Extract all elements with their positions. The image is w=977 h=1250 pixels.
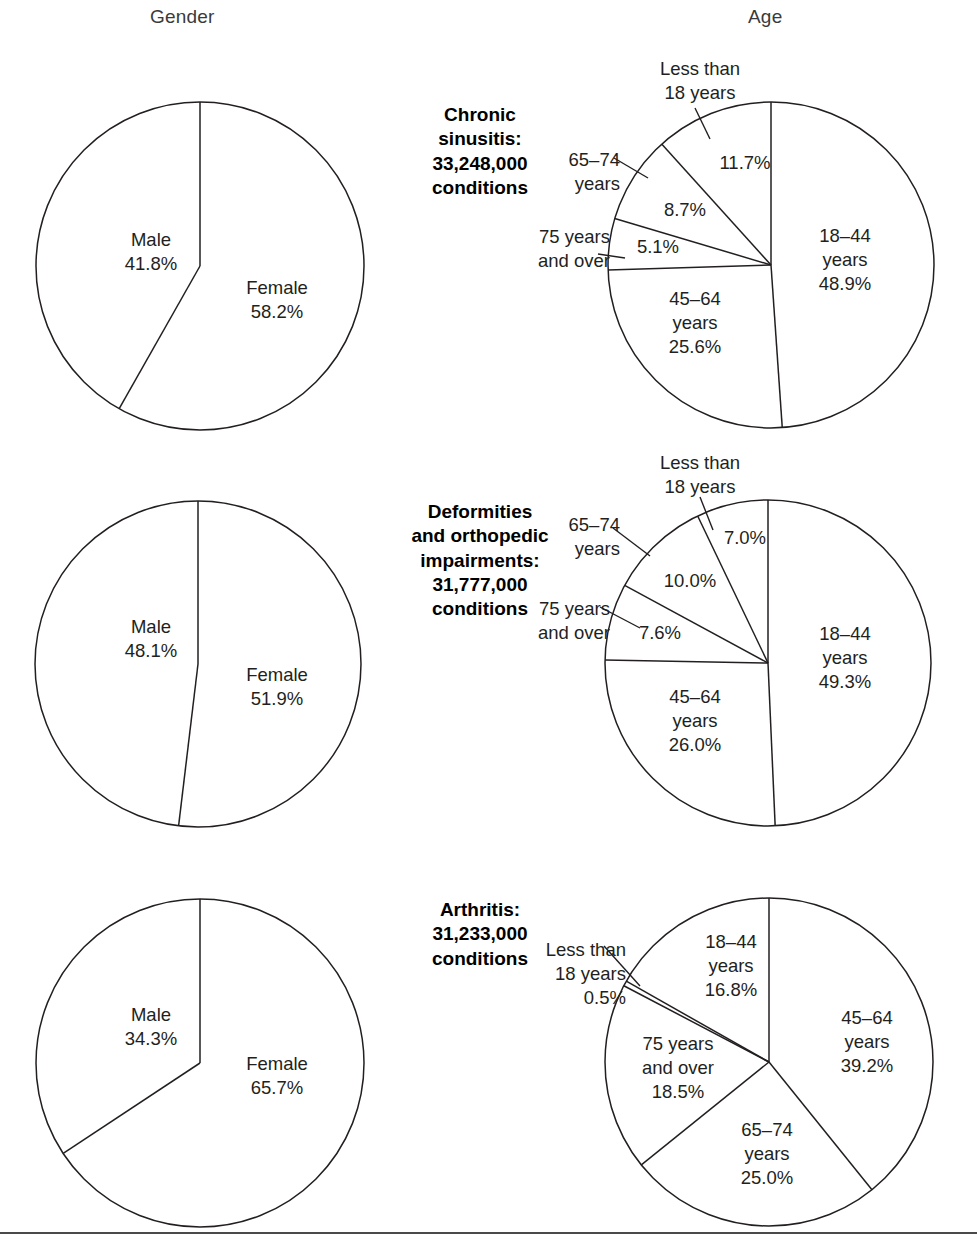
age-slice-label-65to74: 65–74 years 25.0% — [712, 1118, 822, 1190]
age-slice-label-18to44: 18–44 years 16.8% — [676, 930, 786, 1002]
age-slice-label-lessthan18: Less than 18 years 0.5% — [498, 938, 626, 1010]
bottom-divider-rule — [0, 1232, 977, 1234]
age-slice-label-45to64: 45–64 years 39.2% — [812, 1006, 922, 1078]
figure-page: Gender Age Male41.8% Female58.2% Chronic… — [0, 0, 977, 1250]
age-slice-label-75andover: 75 years and over 18.5% — [618, 1032, 738, 1104]
